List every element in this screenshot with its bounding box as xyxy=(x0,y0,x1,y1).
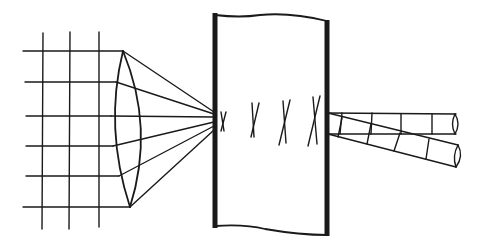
slab xyxy=(215,13,327,236)
diagram-canvas xyxy=(0,0,485,248)
grid-vertical-lines xyxy=(42,32,99,229)
tube-lower xyxy=(328,113,461,167)
converging-rays xyxy=(111,51,214,207)
tube-upper xyxy=(328,113,458,134)
lens xyxy=(115,51,141,207)
grid xyxy=(23,32,130,229)
slab-marks xyxy=(221,96,320,146)
grid-horizontal-lines xyxy=(23,51,130,207)
